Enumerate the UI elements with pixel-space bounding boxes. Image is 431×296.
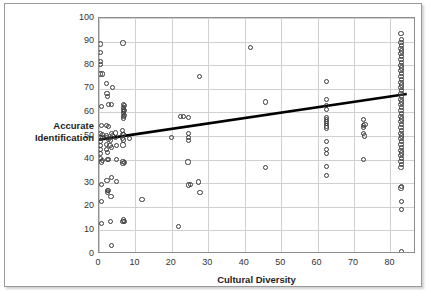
data-point <box>197 190 202 195</box>
data-point <box>122 113 127 118</box>
data-point <box>108 194 113 199</box>
data-point <box>120 142 125 147</box>
data-point <box>99 159 104 164</box>
x-axis-tick-labels: 01020304050607080 <box>0 258 431 272</box>
data-point <box>398 185 403 190</box>
data-point <box>197 74 202 79</box>
x-axis-title: Cultural Diversity <box>98 274 415 285</box>
data-point <box>105 150 110 155</box>
data-point <box>99 104 104 109</box>
data-point <box>362 133 367 138</box>
data-point <box>99 221 104 226</box>
data-point <box>120 40 125 45</box>
y-axis-title-line: Accurate <box>6 120 94 132</box>
data-point <box>324 107 329 112</box>
x-axis-tick-label: 20 <box>156 258 186 267</box>
x-axis-tick-label: 70 <box>338 258 368 267</box>
y-axis-title-line: Identification <box>6 132 94 144</box>
y-axis-tick-label: 90 <box>68 36 94 45</box>
y-axis-title: AccurateIdentification <box>6 120 94 143</box>
x-axis-tick-label: 50 <box>265 258 295 267</box>
data-point <box>398 165 403 170</box>
data-point <box>98 41 103 46</box>
data-point <box>114 157 119 162</box>
y-axis-tick-label: 100 <box>68 13 94 22</box>
data-point <box>121 217 126 222</box>
data-point <box>399 199 404 204</box>
y-axis-tick-label: 30 <box>68 178 94 187</box>
data-point <box>399 249 404 253</box>
x-axis-tick-label: 30 <box>192 258 222 267</box>
data-point <box>399 207 404 212</box>
data-point <box>104 81 109 86</box>
data-point <box>181 114 186 119</box>
data-point <box>113 130 118 135</box>
data-point <box>99 199 104 204</box>
data-point <box>263 99 268 104</box>
y-axis-tick-label: 80 <box>68 60 94 69</box>
data-point <box>185 159 190 164</box>
y-axis-tick-label: 60 <box>68 107 94 116</box>
data-point <box>100 71 105 76</box>
data-point <box>99 182 104 187</box>
x-axis-tick-label: 0 <box>83 258 113 267</box>
data-point <box>186 115 191 120</box>
y-axis-tick-label: 70 <box>68 83 94 92</box>
y-axis-tick-label: 10 <box>68 225 94 234</box>
scatter-plot-figure: 0102030405060708090100 AccurateIdentific… <box>0 0 431 296</box>
plot-area <box>98 17 415 253</box>
data-point <box>324 125 329 130</box>
y-axis-tick-label: 0 <box>68 249 94 258</box>
y-axis-tick-label: 20 <box>68 201 94 210</box>
x-axis-tick-label: 40 <box>229 258 259 267</box>
x-axis-tick-label: 60 <box>302 258 332 267</box>
x-axis-tick-label: 10 <box>119 258 149 267</box>
data-point <box>361 157 366 162</box>
data-point <box>139 197 144 202</box>
y-axis-tick-label: 40 <box>68 154 94 163</box>
y-axis-tick-labels: 0102030405060708090100 <box>66 0 94 296</box>
x-axis-tick-label: 80 <box>374 258 404 267</box>
